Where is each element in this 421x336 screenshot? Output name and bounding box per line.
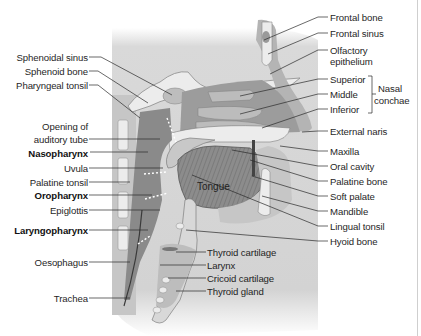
- label-maxilla: Maxilla: [330, 146, 359, 157]
- label-larynx: Larynx: [207, 260, 235, 271]
- nasal-conchae-bracket: [368, 76, 372, 113]
- label-sphenoid-bone: Sphenoid bone: [25, 66, 88, 77]
- label-laryngopharynx: Laryngopharynx: [14, 225, 88, 236]
- label-pharyngeal-tonsil: Pharyngeal tonsil: [16, 80, 88, 91]
- label-sphenoidal-sinus: Sphenoidal sinus: [17, 52, 88, 63]
- label-thyroid-gland: Thyroid gland: [207, 286, 264, 297]
- label-olfactory-epithelium-1: Olfactory: [330, 45, 368, 56]
- label-oesophagus: Oesophagus: [35, 257, 88, 268]
- tongue-label: Tongue: [197, 181, 230, 192]
- label-hyoid-bone: Hyoid bone: [330, 236, 378, 247]
- label-soft-palate: Soft palate: [330, 191, 375, 202]
- anatomy-figure: Tongue Sphenoidal sinus Sphenoid bone Ph…: [0, 0, 421, 336]
- label-nasal-conchae-1: Nasal: [378, 83, 402, 94]
- label-olfactory-epithelium-2: epithelium: [330, 56, 373, 67]
- label-frontal-sinus: Frontal sinus: [330, 28, 384, 39]
- label-palatine-tonsil: Palatine tonsil: [30, 177, 88, 188]
- label-lingual-tonsil: Lingual tonsil: [330, 221, 385, 232]
- label-mandible: Mandible: [330, 206, 368, 217]
- label-superior-concha: Superior: [330, 74, 365, 85]
- label-external-naris: External naris: [330, 126, 387, 137]
- label-frontal-bone: Frontal bone: [330, 12, 383, 23]
- label-epiglottis: Epiglottis: [50, 205, 88, 216]
- label-oral-cavity: Oral cavity: [330, 161, 374, 172]
- label-trachea: Trachea: [54, 293, 88, 304]
- label-cricoid-cartilage: Cricoid cartilage: [207, 273, 274, 284]
- page-divider: [417, 0, 418, 336]
- label-uvula: Uvula: [64, 163, 88, 174]
- label-nasopharynx: Nasopharynx: [28, 148, 88, 159]
- label-inferior-concha: Inferior: [330, 104, 359, 115]
- label-nasal-conchae-2: conchae: [374, 95, 410, 106]
- label-opening-of-auditory-tube-1: Opening of: [42, 121, 88, 132]
- label-palatine-bone: Palatine bone: [330, 176, 387, 187]
- label-oropharynx: Oropharynx: [35, 190, 88, 201]
- label-middle-concha: Middle: [330, 89, 358, 100]
- label-opening-of-auditory-tube-2: auditory tube: [34, 134, 88, 145]
- label-thyroid-cartilage: Thyroid cartilage: [207, 247, 276, 258]
